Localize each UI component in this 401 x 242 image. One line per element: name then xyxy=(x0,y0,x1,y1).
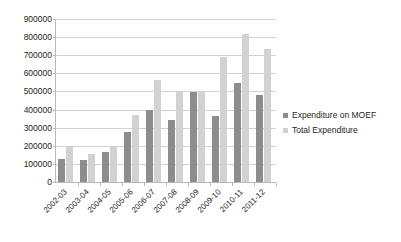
y-axis-tick-label: 900000 xyxy=(0,15,52,24)
bar-group xyxy=(232,19,254,182)
y-axis-tick-label: 600000 xyxy=(0,69,52,78)
bar-group xyxy=(100,19,122,182)
y-axis-tick-mark xyxy=(53,182,56,183)
x-axis-tick-mark xyxy=(122,183,123,186)
legend-label: Total Expenditure xyxy=(292,126,358,135)
bar xyxy=(242,34,249,183)
y-axis-tick-label: 100000 xyxy=(0,160,52,169)
bar xyxy=(110,147,117,182)
bar-group xyxy=(166,19,188,182)
bar-group xyxy=(56,19,78,182)
bar-chart: 0100000200000300000400000500000600000700… xyxy=(0,0,401,242)
bar xyxy=(212,116,219,182)
y-axis-tick-label: 400000 xyxy=(0,105,52,114)
x-axis-tick-mark xyxy=(254,183,255,186)
legend-swatch-icon xyxy=(283,113,288,118)
bar xyxy=(264,49,271,182)
bar xyxy=(102,152,109,182)
x-axis-tick-mark xyxy=(166,183,167,186)
x-axis-tick-mark xyxy=(144,183,145,186)
bar xyxy=(234,83,241,182)
bar xyxy=(220,57,227,182)
bar xyxy=(146,110,153,182)
x-axis-tick-mark xyxy=(232,183,233,186)
bar xyxy=(198,92,205,182)
x-axis-tick-mark xyxy=(100,183,101,186)
legend-swatch-icon xyxy=(283,128,288,133)
x-axis-tick-mark xyxy=(210,183,211,186)
bar xyxy=(132,115,139,182)
y-axis-tick-label: 500000 xyxy=(0,87,52,96)
x-axis-tick-mark xyxy=(78,183,79,186)
bar-group xyxy=(144,19,166,182)
bar xyxy=(124,132,131,182)
legend-item[interactable]: Total Expenditure xyxy=(283,123,376,138)
legend-label: Expenditure on MOEF xyxy=(292,111,376,120)
y-axis-tick-label: 800000 xyxy=(0,33,52,42)
bar xyxy=(58,159,65,182)
plot-area xyxy=(55,19,276,183)
bar-group xyxy=(254,19,276,182)
bar xyxy=(176,92,183,182)
y-axis-tick-label: 300000 xyxy=(0,123,52,132)
bar-group xyxy=(78,19,100,182)
x-axis-tick-mark xyxy=(276,183,277,186)
bar-group xyxy=(122,19,144,182)
bar xyxy=(154,80,161,182)
y-axis-tick-label: 700000 xyxy=(0,51,52,60)
x-axis-tick-mark xyxy=(188,183,189,186)
chart-legend: Expenditure on MOEFTotal Expenditure xyxy=(283,108,376,138)
bar xyxy=(190,92,197,182)
legend-item[interactable]: Expenditure on MOEF xyxy=(283,108,376,123)
bar xyxy=(66,146,73,182)
bar xyxy=(88,154,95,182)
bar xyxy=(80,160,87,182)
bar-group xyxy=(210,19,232,182)
bar-group xyxy=(188,19,210,182)
bar xyxy=(256,95,263,182)
y-axis-tick-label: 200000 xyxy=(0,142,52,151)
y-axis-tick-label: 0 xyxy=(0,178,52,187)
bar xyxy=(168,120,175,182)
